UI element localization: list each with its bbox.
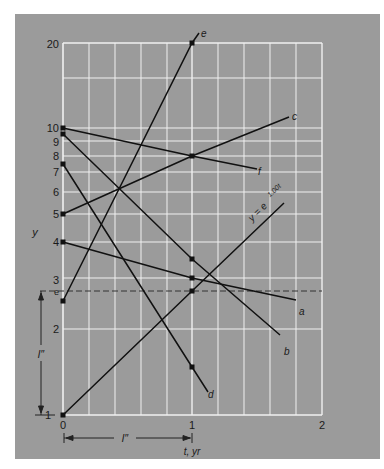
y-tick-20: 20 [47,38,59,50]
y-tick-7: 7 [53,166,59,178]
chart-background [15,14,380,459]
x-tick-2: 2 [319,419,325,431]
x-tick-0: 0 [60,419,66,431]
y-tick-8: 8 [53,150,59,162]
x-tick-1: 1 [189,419,195,431]
y-tick-5: 5 [53,208,59,220]
horizontal-dimension-label: l″ [122,432,129,444]
y-tick-6: 6 [53,186,59,198]
vertical-dimension-label: l″ [38,348,45,360]
y-tick-4: 4 [53,236,59,248]
series-label-c: c [292,111,297,122]
series-label-e: e [201,28,207,39]
series-label-a: a [299,306,305,317]
chart-figure: 1 2 3 e 4 5 6 7 8 9 10 20 0 1 2 y t, yr … [0,0,384,469]
y-tick-9: 9 [53,136,59,148]
y-tick-10: 10 [47,122,59,134]
y-tick-2: 2 [53,323,59,335]
series-label-b: b [284,346,290,357]
x-axis-title: t, yr [184,446,201,457]
y-tick-3: 3 [53,274,59,286]
series-label-d: d [208,389,214,400]
y-tick-e: e [54,287,59,297]
